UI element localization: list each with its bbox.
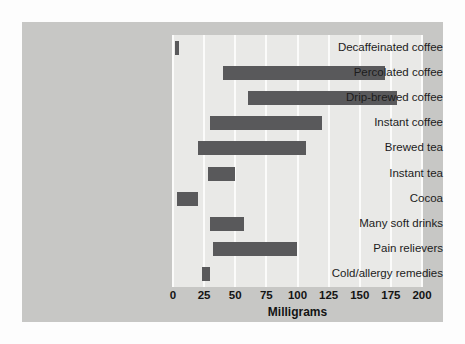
y-axis-label: Brewed tea (295, 142, 443, 154)
x-tick-label: 200 (412, 290, 431, 302)
y-axis-label: Instant tea (295, 168, 443, 180)
y-axis-label: Drip-brewed coffee (295, 92, 443, 104)
y-axis-label: Decaffeinated coffee (295, 42, 443, 54)
bar (202, 267, 211, 281)
bar (175, 41, 179, 55)
bar (210, 217, 244, 231)
y-axis-label: Cocoa (295, 193, 443, 205)
bar (198, 141, 306, 155)
figure: Decaffeinated coffeePercolated coffeeDri… (0, 0, 465, 344)
y-axis-label: Many soft drinks (295, 218, 443, 230)
y-axis-label: Cold/allergy remedies (295, 268, 443, 280)
chart-panel: Decaffeinated coffeePercolated coffeeDri… (22, 22, 443, 322)
x-tick-label: 175 (381, 290, 400, 302)
bar (208, 167, 235, 181)
gridline-25 (203, 35, 205, 287)
x-axis-title: Milligrams (173, 306, 422, 318)
x-tick-label: 150 (350, 290, 369, 302)
x-axis-tick-labels: 0255075100125150175200 (173, 290, 422, 306)
bar (213, 242, 298, 256)
x-tick-label: 100 (288, 290, 307, 302)
x-tick-label: 75 (260, 290, 273, 302)
y-axis-label: Instant coffee (295, 117, 443, 129)
y-axis-label: Pain relievers (295, 243, 443, 255)
bar (177, 192, 198, 206)
x-tick-label: 125 (319, 290, 338, 302)
x-tick-label: 0 (170, 290, 176, 302)
x-tick-label: 25 (198, 290, 211, 302)
gridline-0 (172, 35, 174, 287)
x-tick-label: 50 (229, 290, 242, 302)
y-axis-label: Percolated coffee (295, 67, 443, 79)
